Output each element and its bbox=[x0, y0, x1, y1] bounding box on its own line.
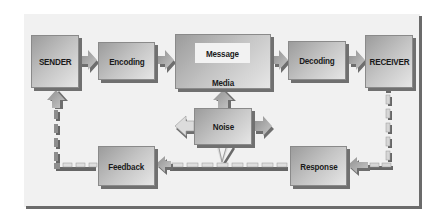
encoding-label: Encoding bbox=[109, 56, 144, 67]
feedback-box: Feedback bbox=[98, 146, 155, 186]
message-inner-box: Message bbox=[195, 43, 250, 63]
arrow-noise-down bbox=[218, 148, 234, 164]
decoding-label: Decoding bbox=[299, 55, 334, 66]
arrow-encoding-to-message bbox=[158, 50, 176, 73]
arrow-noise-left bbox=[175, 116, 195, 139]
noise-label: Noise bbox=[212, 121, 233, 132]
encoding-box: Encoding bbox=[98, 42, 155, 80]
dashes-receiver-down bbox=[386, 89, 392, 162]
dashes-feedback-left bbox=[56, 163, 97, 171]
communication-diagram: SENDER Encoding Message Media Decoding R… bbox=[0, 0, 444, 220]
sender-label: SENDER bbox=[39, 56, 72, 67]
noise-box: Noise bbox=[194, 108, 252, 145]
message-media-box: Message Media bbox=[175, 34, 271, 89]
receiver-label: RECEIVER bbox=[369, 56, 409, 67]
message-label: Message bbox=[206, 48, 239, 59]
arrow-sender-to-encoding bbox=[80, 50, 99, 73]
dashes-up-to-sender bbox=[47, 90, 68, 169]
arrow-noise-right bbox=[255, 116, 274, 139]
feedback-label: Feedback bbox=[109, 161, 145, 172]
sender-box: SENDER bbox=[31, 35, 79, 88]
arrow-noise-to-media bbox=[213, 90, 236, 109]
response-label: Response bbox=[300, 161, 337, 172]
media-label-wrap: Media bbox=[176, 72, 270, 90]
media-label: Media bbox=[212, 77, 234, 88]
receiver-box: RECEIVER bbox=[365, 35, 413, 88]
response-box: Response bbox=[290, 146, 347, 186]
decoding-box: Decoding bbox=[288, 41, 346, 80]
